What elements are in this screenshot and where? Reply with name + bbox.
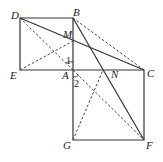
label-angle-1: 1	[66, 55, 71, 66]
segment-dc	[20, 18, 144, 70]
label-g: G	[63, 139, 71, 151]
label-a: A	[61, 69, 69, 81]
label-m: M	[62, 28, 73, 40]
label-d: D	[10, 9, 19, 21]
segment-bc	[73, 18, 144, 70]
segment-af	[73, 70, 144, 140]
label-n: N	[110, 68, 119, 80]
label-c: C	[147, 67, 155, 79]
angle-2-arc	[73, 75, 79, 77]
label-b: B	[73, 6, 80, 18]
geometry-diagram: D B E A C G F M N 1 2	[0, 0, 163, 162]
label-e: E	[9, 69, 17, 81]
label-f: F	[145, 139, 153, 151]
label-angle-2: 2	[74, 78, 79, 89]
segment-bf	[73, 18, 144, 140]
